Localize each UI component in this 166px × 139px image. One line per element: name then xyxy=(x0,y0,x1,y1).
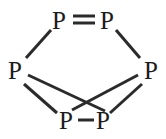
top-double-bond xyxy=(73,16,95,23)
cross-bond-right-to-bottom-left xyxy=(72,75,138,110)
chemical-structure-figure: P P P P P P xyxy=(0,0,166,139)
lower-left-bond xyxy=(24,84,57,113)
atom-label-mid-left: P xyxy=(4,58,26,83)
atom-label-mid-right: P xyxy=(140,58,162,83)
upper-left-bond xyxy=(26,30,51,58)
atom-label-bottom-left: P xyxy=(55,108,77,133)
atom-label-top-right: P xyxy=(96,8,118,33)
atom-label-top-left: P xyxy=(48,8,70,33)
atom-label-bottom-right: P xyxy=(92,108,114,133)
cross-bond-left-to-bottom-right xyxy=(28,75,105,111)
upper-right-bond xyxy=(116,30,140,58)
